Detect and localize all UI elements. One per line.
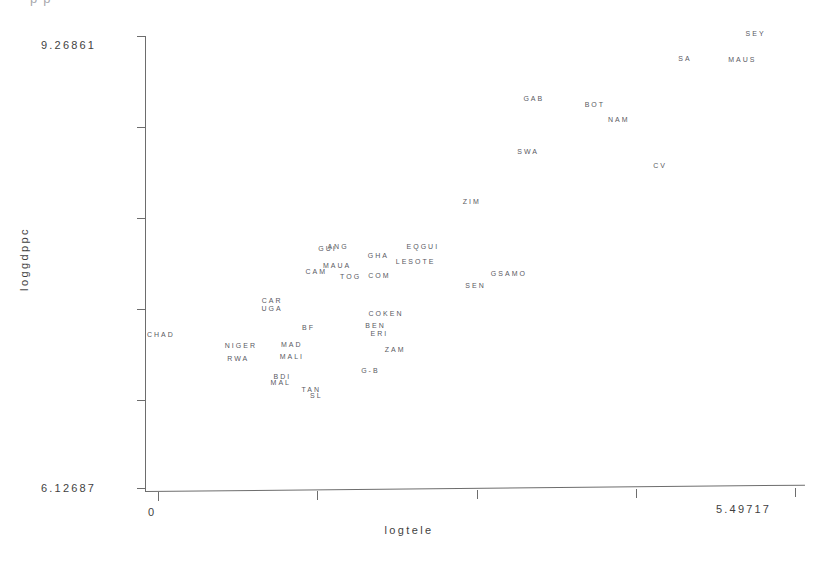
data-points-layer: SEYSAMAUSGABBOTNAMSWACVZIMEQGUIGUIANGGHA… [0, 0, 818, 564]
scatter-point-label: CHAD [147, 331, 175, 339]
scatter-point-label: BOT [585, 101, 605, 109]
scatter-plot-figure: p p 9.26861 6.12687 0 5.49717 loggdppc l… [0, 0, 818, 564]
scatter-point-label: SWA [517, 148, 539, 156]
scatter-point-label: GHA [368, 252, 389, 260]
scatter-point-label: SEN [465, 282, 485, 290]
scatter-point-label: ERI [370, 330, 388, 338]
scatter-point-label: ANG [327, 243, 348, 251]
scatter-point-label: NIGER [225, 342, 257, 350]
scatter-point-label: RWA [227, 355, 249, 363]
scatter-point-label: BEN [365, 322, 385, 330]
scatter-point-label: CV [653, 162, 667, 170]
scatter-point-label: TOG [340, 273, 361, 281]
scatter-point-label: MAD [281, 341, 303, 349]
scatter-point-label: COM [368, 272, 390, 280]
scatter-point-label: MALI [280, 353, 304, 361]
scatter-point-label: MAL [271, 379, 291, 387]
scatter-point-label: EQGUI [407, 243, 440, 251]
scatter-point-label: SL [310, 392, 323, 400]
scatter-point-label: COKEN [369, 310, 404, 318]
scatter-point-label: SA [678, 55, 691, 63]
scatter-point-label: NAM [608, 116, 630, 124]
scatter-point-label: MAUS [728, 56, 756, 64]
scatter-point-label: GAB [523, 95, 544, 103]
scatter-point-label: SEY [746, 30, 766, 38]
scatter-point-label: GSAMO [491, 270, 527, 278]
scatter-point-label: CAM [306, 268, 328, 276]
scatter-point-label: ZAM [385, 346, 406, 354]
scatter-point-label: UGA [262, 305, 283, 313]
scatter-point-label: MAUA [323, 262, 351, 270]
scatter-point-label: G-B [361, 367, 379, 375]
scatter-point-label: ZIM [463, 198, 481, 206]
scatter-point-label: BF [302, 324, 315, 332]
scatter-point-label: LESOTE [396, 258, 436, 266]
